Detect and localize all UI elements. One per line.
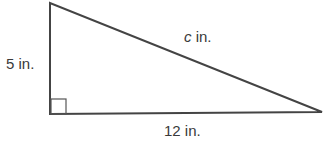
triangle-diagram: 5 in. c in. 12 in. [0, 0, 324, 148]
right-triangle [50, 3, 322, 114]
hypotenuse-variable: c [184, 28, 192, 45]
right-angle-marker [51, 99, 66, 114]
height-label: 5 in. [6, 56, 34, 71]
base-label: 12 in. [164, 123, 201, 138]
triangle-figure [0, 0, 324, 148]
hypotenuse-label: c in. [184, 29, 212, 44]
hypotenuse-unit: in. [192, 28, 212, 45]
